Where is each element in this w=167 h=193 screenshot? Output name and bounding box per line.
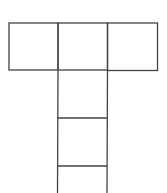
square-top-middle — [58, 23, 108, 70]
column-left-edge — [58, 70, 59, 193]
square-top-right — [108, 23, 158, 71]
column-right-edge — [107, 70, 108, 193]
square-top-left — [9, 23, 58, 70]
t-shaped-net-diagram — [0, 0, 167, 193]
